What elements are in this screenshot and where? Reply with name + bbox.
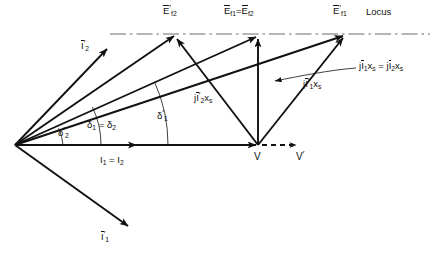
label-ji2-prime-xs: jI′2xs [194,93,212,103]
label-v-prime: V′ [296,152,304,162]
label-delta1-equals-delta2: δ1 = δ2 [87,120,116,130]
label-locus: Locus [366,7,391,17]
ef1-ef2-vector [15,37,256,145]
label-ef2-prime: E′f2 [163,6,177,16]
label-ef1-prime: E′f1 [333,6,347,16]
phasor-diagram: E′f2 Ef1=Ef2 E′f1 Locus I′2 I′1 jI1xs = … [0,0,432,254]
label-ji1-prime-xs: jI′1xs [303,79,321,89]
label-delta1-prime: δ′1 [157,111,168,121]
label-ji1xs-equals-ji2xs: jI1xs = jI2xs [359,61,403,71]
ji1-prime-xs-vector [258,38,343,145]
label-i1-prime: I′1 [101,232,109,242]
label-delta2-prime: δ′2 [58,128,69,138]
label-v: V [254,152,261,162]
label-i2-prime: I′2 [81,41,89,51]
label-ef1-equals-ef2: Ef1=Ef2 [224,6,254,16]
label-i1-equals-i2: I1 = I2 [100,155,124,165]
